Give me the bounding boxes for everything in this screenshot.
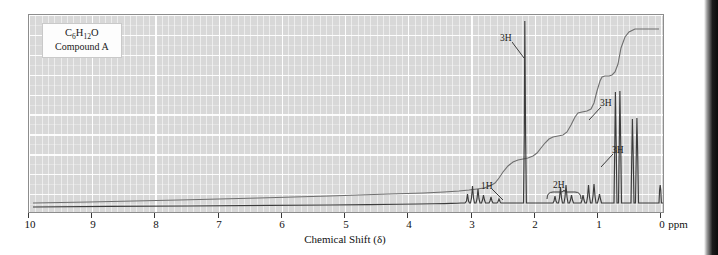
x-axis-title: Chemical Shift (δ): [0, 233, 690, 245]
integration-trace: [33, 29, 659, 203]
axis-label-4: 4: [406, 218, 412, 230]
formula-o: O: [91, 27, 99, 38]
axis-label-10: 10: [25, 218, 36, 230]
formula-sub-12: 12: [83, 32, 91, 41]
annotation-3h-methyl-ketone: 3H: [500, 33, 512, 43]
annotation-2h-methylene: 2H: [553, 180, 565, 190]
nmr-trace: [33, 21, 663, 207]
bracket-2h: [546, 190, 582, 200]
leader-line-3h-b: [589, 107, 603, 123]
axis-label-1: 1: [596, 218, 602, 230]
axis-label-5: 5: [343, 218, 349, 230]
axis-label-7: 7: [216, 218, 222, 230]
axis-label-9: 9: [90, 218, 96, 230]
axis-label-3: 3: [469, 218, 475, 230]
annotation-1h-methine: 1H: [481, 181, 493, 191]
axis-unit-ppm: ppm: [668, 218, 688, 230]
x-axis-labels: 10 9 8 7 6 5 4 3 2 1 0 ppm: [0, 218, 718, 232]
axis-label-2: 2: [532, 218, 538, 230]
figure-canvas: C6H12O Compound A 3H 3H 3H 1H 2H 10 9: [0, 0, 718, 255]
axis-label-0: 0: [659, 218, 665, 230]
axis-label-8: 8: [153, 218, 159, 230]
leader-line-3h-a: [512, 42, 528, 62]
nmr-spectrum-plot: [28, 14, 664, 213]
compound-name: Compound A: [55, 41, 109, 53]
spectrum-traces: [29, 15, 663, 212]
plot-area: [29, 15, 663, 212]
page-edge-shadow: [704, 0, 718, 255]
leader-line-3h-c: [601, 154, 615, 170]
molecular-formula: C6H12O: [55, 27, 109, 41]
leader-line-1h: [492, 189, 506, 203]
compound-label-box: C6H12O Compound A: [42, 23, 122, 58]
axis-label-6: 6: [279, 218, 285, 230]
